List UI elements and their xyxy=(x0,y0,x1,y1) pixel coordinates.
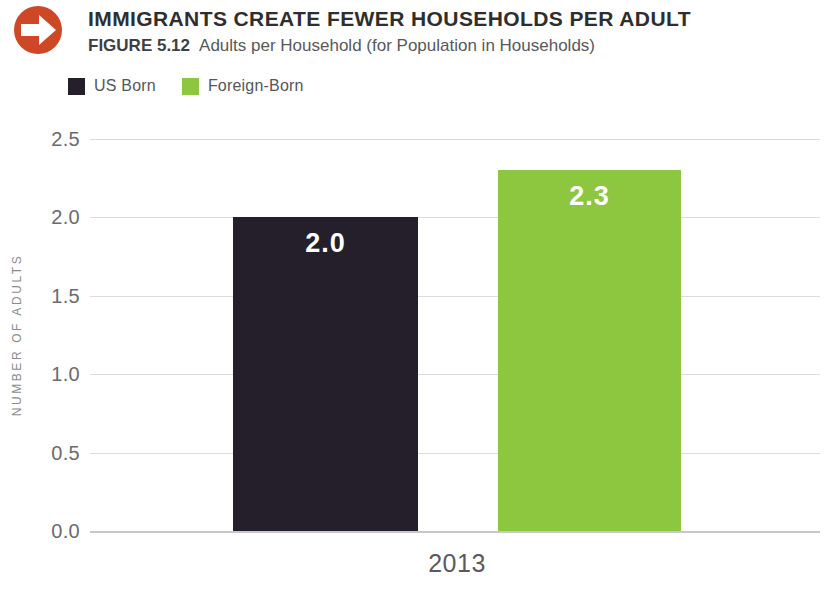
bar-value-label: 2.3 xyxy=(569,181,610,212)
bar-chart: NUMBER OF ADULTS 2013 0.00.51.01.52.02.5… xyxy=(0,0,831,592)
y-tick-label: 0.0 xyxy=(20,520,80,543)
bar-value-label: 2.0 xyxy=(305,228,346,259)
bar-us-born: 2.0 xyxy=(233,217,418,531)
gridline xyxy=(90,217,820,218)
y-tick-label: 0.5 xyxy=(20,442,80,465)
gridline xyxy=(90,139,820,140)
x-axis-label: 2013 xyxy=(233,549,681,578)
y-tick-label: 1.5 xyxy=(20,285,80,308)
y-tick-label: 1.0 xyxy=(20,363,80,386)
y-tick-label: 2.5 xyxy=(20,128,80,151)
bar-foreign-born: 2.3 xyxy=(498,170,681,531)
x-axis-baseline xyxy=(90,531,820,533)
gridline xyxy=(90,296,820,297)
figure-page: IMMIGRANTS CREATE FEWER HOUSEHOLDS PER A… xyxy=(0,0,831,592)
gridline xyxy=(90,453,820,454)
gridline xyxy=(90,374,820,375)
y-axis-title: NUMBER OF ADULTS xyxy=(10,254,24,417)
y-tick-label: 2.0 xyxy=(20,206,80,229)
